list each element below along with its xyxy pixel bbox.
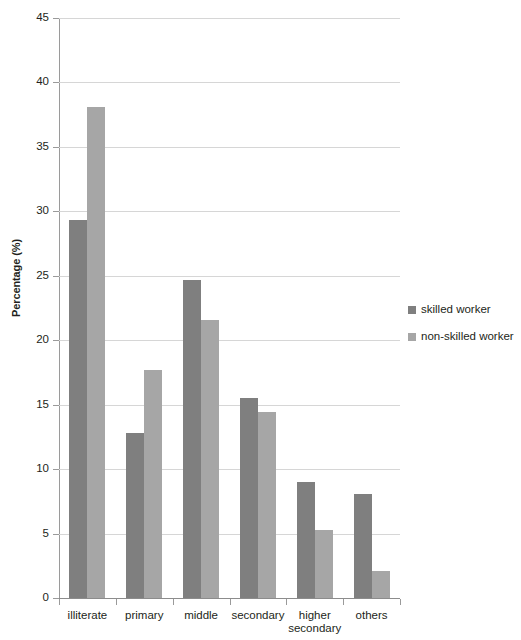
y-tick-label: 45 [5,12,49,24]
bar-primary-skilled-worker [126,433,144,598]
x-tick-mark [116,599,117,605]
bar-chart: Percentage (%) 051015202530354045 illite… [0,0,521,640]
legend-swatch-icon [408,333,416,341]
y-tick-label-wrap: 25 [0,270,49,282]
y-tick-label-wrap: 0 [0,592,49,604]
y-tick-label-wrap: 45 [0,12,49,24]
legend-label: skilled worker [421,303,491,316]
y-tick-label: 20 [5,334,49,346]
bar-illiterate-non-skilled-worker [87,107,105,598]
bar-middle-skilled-worker [183,280,201,598]
y-tick-label-wrap: 10 [0,463,49,475]
bar-primary-non-skilled-worker [144,370,162,598]
chart-legend: skilled workernon-skilled worker [408,303,521,357]
legend-swatch-icon [408,306,416,314]
y-tick-label: 40 [5,76,49,88]
legend-item: skilled worker [408,303,521,316]
x-tick-mark [59,599,60,605]
y-tick-label-wrap: 40 [0,76,49,88]
bar-illiterate-skilled-worker [69,220,87,598]
y-tick-label-wrap: 5 [0,528,49,540]
bar-higher-secondary-skilled-worker [297,482,315,598]
y-tick-label: 25 [5,270,49,282]
bar-middle-non-skilled-worker [201,320,219,598]
x-tick-mark [286,599,287,605]
bar-others-skilled-worker [354,494,372,598]
bar-others-non-skilled-worker [372,571,390,598]
y-tick-label: 35 [5,141,49,153]
y-tick-label: 10 [5,463,49,475]
y-tick-label-wrap: 35 [0,141,49,153]
y-tick-label: 5 [5,528,49,540]
plot-area [59,18,400,598]
y-tick-label-wrap: 30 [0,205,49,217]
bar-secondary-skilled-worker [240,398,258,598]
x-tick-mark [230,599,231,605]
x-axis-label: others [337,609,406,622]
x-tick-mark [343,599,344,605]
x-tick-mark [400,599,401,605]
y-tick-label-wrap: 15 [0,399,49,411]
bar-higher-secondary-non-skilled-worker [315,530,333,598]
legend-item: non-skilled worker [408,330,521,343]
bar-secondary-non-skilled-worker [258,412,276,598]
y-tick-label: 30 [5,205,49,217]
legend-label: non-skilled worker [421,330,514,343]
y-tick-label: 0 [5,592,49,604]
y-tick-label-wrap: 20 [0,334,49,346]
y-tick-label: 15 [5,399,49,411]
x-tick-mark [173,599,174,605]
